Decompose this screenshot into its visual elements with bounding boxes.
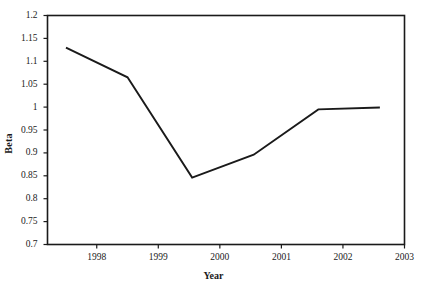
y-axis-title: Beta xyxy=(3,114,14,174)
y-tick-label: 0.7 xyxy=(0,239,38,249)
y-tick-label: 1 xyxy=(0,102,38,112)
x-tick-label: 2000 xyxy=(190,252,250,262)
y-tick-label: 1.05 xyxy=(0,79,38,89)
x-tick-label: 1998 xyxy=(67,252,127,262)
plot-frame xyxy=(48,16,405,245)
plot-canvas xyxy=(0,0,427,292)
x-tick-label: 2003 xyxy=(375,252,427,262)
x-axis-title: Year xyxy=(0,270,427,281)
y-axis-title-wrap: Beta xyxy=(0,116,16,176)
x-tick-label: 1999 xyxy=(128,252,188,262)
y-tick-label: 0.75 xyxy=(0,216,38,226)
y-tick-label: 1.1 xyxy=(0,56,38,66)
x-tick-label: 2001 xyxy=(251,252,311,262)
y-tick-label: 0.8 xyxy=(0,193,38,203)
y-tick-label: 1.15 xyxy=(0,33,38,43)
chart-figure: 0.70.750.80.850.90.9511.051.11.151.2 199… xyxy=(0,0,427,292)
x-tick-label: 2002 xyxy=(313,252,373,262)
y-tick-label: 1.2 xyxy=(0,10,38,20)
